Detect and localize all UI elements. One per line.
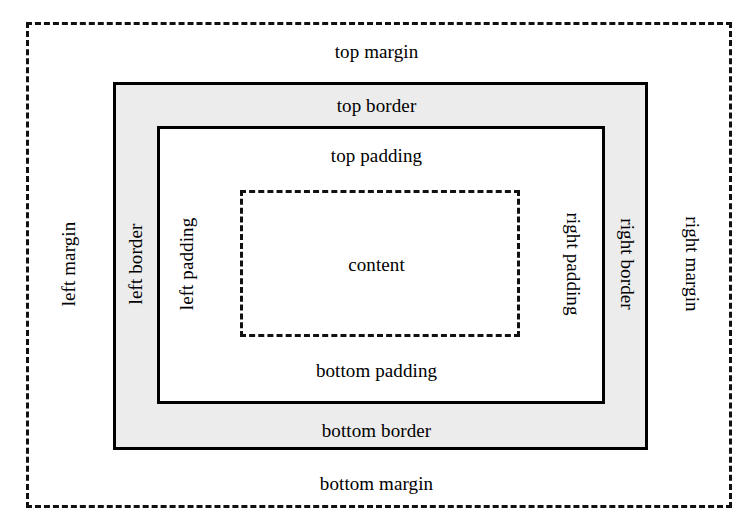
label-content: content [0,255,753,274]
label-left-padding: left padding [177,218,196,310]
label-left-margin: left margin [59,222,78,307]
label-left-border: left border [126,224,145,305]
label-bottom-margin: bottom margin [0,474,753,493]
label-right-padding: right padding [564,212,583,315]
label-top-padding: top padding [0,146,753,165]
label-bottom-border: bottom border [0,421,753,440]
box-model-diagram: top margin top border top padding conten… [0,0,753,530]
label-top-margin: top margin [0,42,753,61]
label-right-border: right border [618,218,637,309]
label-bottom-padding: bottom padding [0,361,753,380]
label-top-border: top border [0,96,753,115]
label-right-margin: right margin [683,216,702,311]
